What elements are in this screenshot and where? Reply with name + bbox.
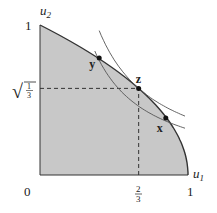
x-max-label: 1 [187, 184, 194, 199]
svg-text:3: 3 [136, 194, 141, 204]
point-label-z: z [136, 72, 142, 86]
point-label-y: y [89, 57, 95, 71]
point-x [163, 116, 168, 121]
svg-text:3: 3 [27, 91, 31, 100]
svg-text:√: √ [12, 80, 23, 102]
x-tick-label: 2 3 [135, 184, 142, 204]
diagram: yzx u2 u1 1 0 1 2 3 √ 1 3 [0, 0, 217, 213]
origin-label: 0 [24, 184, 31, 199]
y-axis-label: u2 [40, 3, 52, 20]
x-axis-label: u1 [193, 166, 204, 183]
svg-text:2: 2 [136, 184, 141, 194]
feasible-region [40, 25, 188, 175]
y-tick-label: √ 1 3 [12, 80, 36, 102]
point-label-x: x [157, 121, 163, 135]
point-z [136, 86, 141, 91]
point-y [97, 56, 102, 61]
svg-text:1: 1 [27, 82, 31, 91]
y-max-label: 1 [25, 18, 32, 33]
